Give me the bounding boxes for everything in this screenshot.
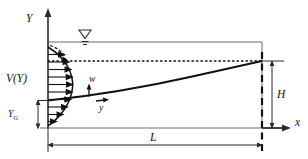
- figure-container: Y x: [0, 0, 308, 159]
- y-axis: [45, 8, 52, 128]
- velocity-profile: [48, 46, 73, 127]
- flow-diagram: Y x: [0, 0, 308, 159]
- l-dimension-label: L: [149, 131, 156, 143]
- x-axis-label: x: [294, 116, 301, 128]
- h-dimension-label: H: [276, 88, 286, 100]
- channel-bed-curve: [48, 61, 262, 101]
- yg-dimension-label: YG: [8, 109, 18, 122]
- velocity-profile-label: V(Y): [6, 72, 27, 85]
- y-component-label: y: [98, 103, 104, 113]
- y-axis-label: Y: [26, 12, 34, 24]
- w-component-label: w: [89, 74, 96, 84]
